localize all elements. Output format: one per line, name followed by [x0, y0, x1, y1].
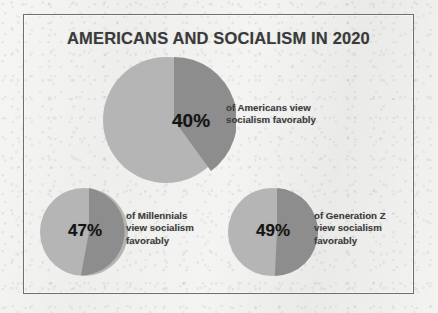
caption-line: favorably	[314, 235, 386, 247]
percent-label-americans: 40%	[172, 111, 210, 130]
caption-line: of Millennials	[126, 210, 194, 222]
page-title: AMERICANS AND SOCIALISM IN 2020	[23, 29, 414, 48]
caption-generation-z: of Generation Z view socialism favorably	[314, 210, 386, 247]
caption-line: view socialism	[126, 222, 194, 234]
percent-label-millennials: 47%	[68, 222, 102, 239]
caption-line: view socialism	[314, 222, 386, 234]
pie-chart-americans-svg	[102, 53, 236, 187]
caption-millennials: of Millennials view socialism favorably	[126, 210, 194, 247]
caption-line: of Generation Z	[314, 210, 386, 222]
caption-line: of Americans view	[226, 102, 316, 114]
caption-americans: of Americans view socialism favorably	[226, 102, 316, 127]
caption-line: favorably	[126, 235, 194, 247]
caption-line: socialism favorably	[226, 114, 316, 126]
infographic-page: AMERICANS AND SOCIALISM IN 2020 40% of A…	[0, 0, 438, 313]
pie-chart-americans	[102, 53, 236, 187]
percent-label-generation-z: 49%	[256, 222, 290, 239]
